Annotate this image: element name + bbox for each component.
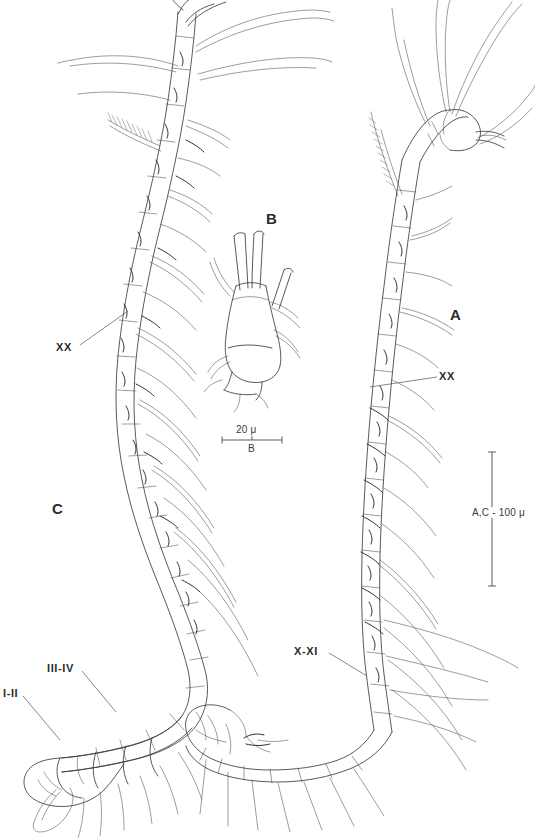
panel-label-b: B <box>266 210 277 227</box>
plate-background <box>0 0 535 838</box>
annotation-x-xi: X-XI <box>294 645 318 657</box>
annotation-xx-right: XX <box>439 370 455 382</box>
annotation-iii-iv: III-IV <box>47 662 74 674</box>
scale-b-panel: B <box>248 443 255 454</box>
annotation-xx-left: XX <box>56 341 72 353</box>
figure-plate <box>0 0 535 838</box>
scale-ac-value: A,C - 100 μ <box>470 507 527 518</box>
annotation-i-ii: I-II <box>3 687 18 699</box>
panel-label-c: C <box>52 500 63 517</box>
panel-label-a: A <box>450 306 461 323</box>
scale-b-value: 20 μ <box>236 424 256 435</box>
